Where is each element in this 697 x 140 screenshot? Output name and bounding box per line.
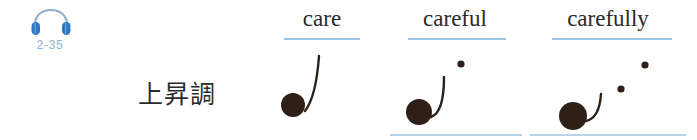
- stressed-syllable-dot: [281, 93, 305, 117]
- column-baseline: [530, 134, 686, 136]
- pitch-contour-diagram: [258, 44, 386, 140]
- unstressed-syllable-dot: [641, 61, 648, 68]
- stressed-syllable-dot: [559, 102, 587, 130]
- word-underline: [552, 38, 672, 40]
- stressed-syllable-dot: [406, 99, 432, 125]
- audio-cue: 2-35: [14, 4, 86, 60]
- pitch-contour-diagram: [524, 44, 692, 140]
- word-column: care: [258, 0, 386, 140]
- word-column: careful: [386, 0, 524, 140]
- pitch-contour-diagram: [386, 44, 524, 140]
- tone-caption: 上昇調: [138, 74, 216, 110]
- word-column: carefully: [524, 0, 692, 140]
- intonation-illustration: 2-35 上昇調 carecarefulcarefully: [0, 0, 697, 140]
- word-underline: [408, 38, 506, 40]
- unstressed-syllable-dot: [457, 60, 464, 67]
- word-label: care: [258, 6, 386, 32]
- word-label: careful: [386, 6, 524, 32]
- audio-track-label: 2-35: [14, 38, 86, 52]
- rising-curve: [431, 77, 444, 117]
- word-label: carefully: [524, 6, 692, 32]
- column-baseline: [390, 134, 522, 136]
- word-underline: [284, 38, 360, 40]
- unstressed-syllable-dot: [617, 85, 624, 92]
- headphone-icon: [30, 8, 72, 36]
- rising-curve: [586, 94, 601, 121]
- rising-curve: [305, 56, 319, 111]
